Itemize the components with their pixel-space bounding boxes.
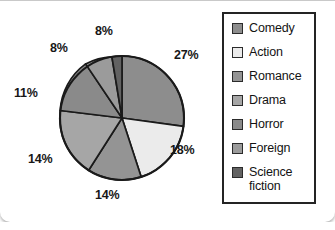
pie-label-horror: 11% xyxy=(14,87,38,100)
legend-swatch-science-fiction xyxy=(232,167,243,178)
legend-swatch-comedy xyxy=(232,23,243,34)
pie-label-foreign: 8% xyxy=(50,42,68,55)
legend-label-science-fiction: Science fiction xyxy=(249,165,292,193)
legend-label-romance: Romance xyxy=(249,69,301,83)
legend-label-horror: Horror xyxy=(249,117,284,131)
legend-label-action: Action xyxy=(249,45,283,59)
pie-chart-figure: 27% 18% 14% 14% 11% 8% 8% Comedy Action … xyxy=(0,0,335,230)
legend-item-science-fiction[interactable]: Science fiction xyxy=(232,165,314,195)
pie-label-science-fiction: 8% xyxy=(95,25,113,38)
pie-label-action: 18% xyxy=(170,144,194,157)
legend-swatch-action xyxy=(232,47,243,58)
legend-swatch-horror xyxy=(232,119,243,130)
pie-label-romance: 14% xyxy=(95,189,119,202)
legend-swatch-foreign xyxy=(232,143,243,154)
legend-item-romance[interactable]: Romance xyxy=(232,69,314,86)
legend-item-comedy[interactable]: Comedy xyxy=(232,21,314,38)
legend-label-comedy: Comedy xyxy=(249,21,295,35)
pie-slice-comedy[interactable] xyxy=(122,56,184,126)
legend: Comedy Action Romance Drama Horror Forei… xyxy=(222,12,316,204)
pie-chart: 27% 18% 14% 14% 11% 8% 8% xyxy=(0,0,222,222)
page-bottom-margin xyxy=(0,222,335,230)
legend-item-drama[interactable]: Drama xyxy=(232,93,314,110)
legend-item-action[interactable]: Action xyxy=(232,45,314,62)
pie-label-comedy: 27% xyxy=(174,49,198,62)
legend-swatch-romance xyxy=(232,71,243,82)
legend-label-drama: Drama xyxy=(249,93,286,107)
legend-item-foreign[interactable]: Foreign xyxy=(232,141,314,158)
legend-swatch-drama xyxy=(232,95,243,106)
legend-label-foreign: Foreign xyxy=(249,141,290,155)
legend-item-horror[interactable]: Horror xyxy=(232,117,314,134)
pie-label-drama: 14% xyxy=(28,153,52,166)
